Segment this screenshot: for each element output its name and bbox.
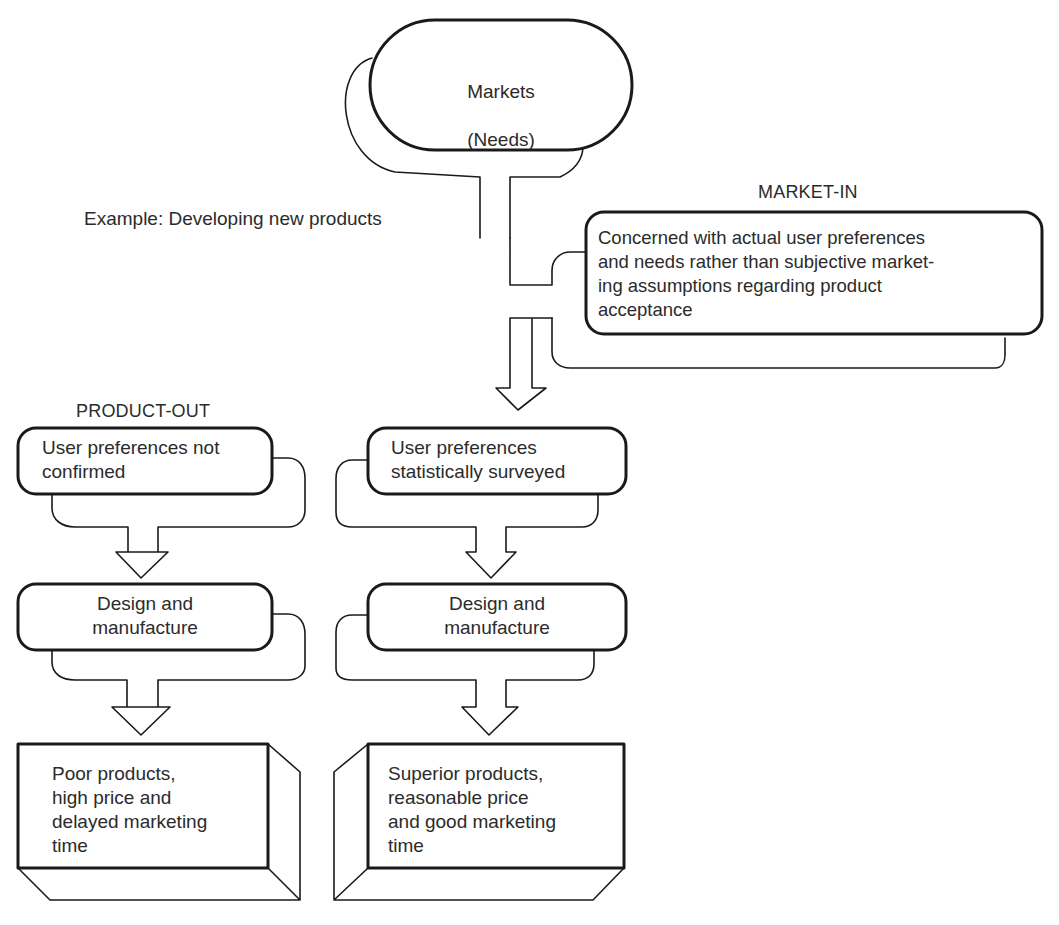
po-step2-label: Design and manufacture bbox=[18, 592, 272, 640]
po-result-label: Poor products, high price and delayed ma… bbox=[52, 762, 262, 858]
mi-step2-label: Design and manufacture bbox=[368, 592, 626, 640]
market-in-heading: MARKET-IN bbox=[758, 180, 858, 204]
po-step1-label: User preferences not confirmed bbox=[42, 436, 272, 484]
markets-label: Markets bbox=[370, 80, 632, 104]
needs-label: (Needs) bbox=[370, 128, 632, 152]
connector-to-market-in bbox=[510, 238, 590, 285]
product-out-heading: PRODUCT-OUT bbox=[76, 399, 210, 423]
market-in-description: Concerned with actual user preferences a… bbox=[598, 226, 1038, 322]
example-label: Example: Developing new products bbox=[84, 207, 382, 231]
mi-result-label: Superior products, reasonable price and … bbox=[388, 762, 618, 858]
markets-node-label: Markets (Needs) bbox=[370, 56, 632, 176]
arrow-to-survey bbox=[496, 318, 552, 410]
mi-step1-label: User preferences statistically surveyed bbox=[391, 436, 627, 484]
